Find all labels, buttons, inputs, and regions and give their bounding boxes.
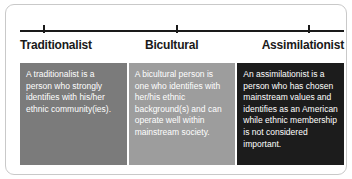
- scale-label-bicultural: Bicultural: [145, 38, 198, 52]
- tick-assimilationist: [308, 25, 310, 37]
- description-panel-traditionalist: A traditionalist is a person who strongl…: [20, 63, 127, 165]
- description-panel-assimilationist: An assimilationist is a person who has c…: [237, 63, 344, 165]
- scale-line: [20, 30, 344, 32]
- scale-labels: Traditionalist Bicultural Assimilationis…: [20, 38, 344, 54]
- scale-label-assimilationist: Assimilationist: [262, 38, 344, 52]
- scale-label-traditionalist: Traditionalist: [20, 38, 92, 52]
- continuum-scale: [20, 25, 344, 37]
- description-panels: A traditionalist is a person who strongl…: [20, 63, 344, 165]
- acculturation-continuum-figure: Traditionalist Bicultural Assimilationis…: [0, 0, 352, 179]
- tick-bicultural: [176, 25, 178, 37]
- figure-frame: Traditionalist Bicultural Assimilationis…: [5, 4, 347, 175]
- tick-traditionalist: [43, 25, 45, 37]
- description-panel-bicultural: A bicultural person is one who identifie…: [129, 63, 236, 165]
